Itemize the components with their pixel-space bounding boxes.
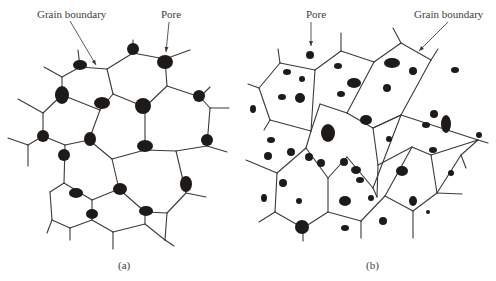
grain-boundary-line — [186, 193, 206, 197]
pore — [409, 67, 417, 75]
pore — [429, 147, 437, 153]
pore — [448, 170, 454, 176]
pore — [180, 176, 192, 192]
grain-boundary-line — [401, 115, 478, 140]
panel-b-pores — [250, 51, 482, 234]
pore — [368, 195, 374, 201]
pore — [283, 69, 291, 75]
pore — [476, 132, 482, 138]
callout-arrow — [419, 22, 448, 51]
grain-boundary-line — [385, 196, 413, 211]
grain-boundary-line — [278, 49, 280, 63]
grain-boundary-line — [478, 140, 488, 143]
pore — [94, 97, 110, 109]
grain-boundary-line — [264, 120, 270, 130]
grain-boundary-line — [207, 146, 227, 152]
pore — [127, 43, 139, 55]
pore — [193, 90, 205, 102]
grain-boundary-line — [259, 88, 270, 120]
grain-boundary-line — [280, 63, 315, 70]
pore — [305, 153, 313, 161]
pore — [426, 210, 430, 214]
grain-boundary-line — [113, 224, 145, 232]
pore — [341, 225, 349, 231]
grain-boundary-line — [341, 51, 374, 62]
grain-boundary-line — [176, 146, 207, 151]
grain-boundary-line — [107, 53, 133, 69]
pore — [278, 94, 286, 100]
callout-arrow — [70, 21, 96, 65]
pore — [69, 188, 83, 198]
panel-a-grain-boundaries — [8, 40, 229, 249]
grain-boundary-line — [259, 212, 275, 222]
pore — [356, 177, 364, 183]
pore — [139, 206, 153, 216]
grain-boundary-line — [401, 43, 431, 60]
grain-boundary-line — [248, 84, 259, 88]
pore — [84, 132, 96, 146]
grain-boundary-line — [461, 155, 466, 168]
grain-boundary-line — [165, 213, 167, 240]
pore — [58, 149, 70, 161]
grain-boundary-line — [393, 28, 401, 43]
pore — [360, 115, 372, 125]
pore — [261, 194, 267, 202]
panel-b-labels: PoreGrain boundary — [306, 8, 484, 51]
pore — [296, 198, 302, 204]
pore — [37, 130, 49, 142]
pore — [321, 124, 335, 142]
pore — [409, 196, 417, 206]
grain-boundary-line — [431, 140, 478, 155]
grain-boundary-line — [167, 193, 186, 213]
pore — [384, 58, 400, 68]
grain-boundary-line — [8, 138, 28, 145]
pore — [250, 105, 256, 113]
pore — [379, 217, 387, 225]
grain-boundary-line — [70, 220, 92, 228]
grain-boundary-line — [328, 212, 361, 221]
grain-boundary-line — [145, 224, 165, 240]
grain-boundary-line — [18, 99, 43, 113]
grain-boundary-line — [50, 192, 52, 220]
grain-boundary-line — [270, 120, 311, 131]
grain-boundary-line — [165, 240, 174, 246]
pore — [299, 76, 305, 82]
pore — [295, 93, 305, 103]
pore — [137, 140, 153, 152]
grain-boundary-pore-diagram: Grain boundaryPore (a) PoreGrain boundar… — [0, 0, 496, 281]
panel-b: PoreGrain boundary (b) — [246, 8, 488, 272]
arrowhead-icon — [309, 41, 313, 46]
pore — [295, 220, 309, 234]
pore — [279, 179, 287, 187]
panel-b-grain-boundaries — [246, 28, 488, 241]
grain-boundary-line — [306, 131, 311, 148]
grain-boundary-line — [44, 67, 62, 77]
grain-boundary-line — [431, 49, 438, 60]
callout-label: Grain boundary — [37, 8, 107, 20]
grain-boundary-line — [107, 69, 113, 94]
grain-boundary-line — [246, 160, 277, 173]
grain-boundary-line — [401, 60, 431, 115]
pore — [317, 159, 325, 167]
pore — [113, 183, 127, 195]
grain-boundary-line — [50, 183, 64, 192]
pore — [441, 115, 451, 133]
grain-boundary-line — [47, 220, 52, 233]
pore — [347, 78, 361, 88]
pore — [287, 148, 295, 156]
grain-boundary-line — [275, 173, 277, 212]
pore — [157, 55, 173, 69]
grain-boundary-line — [52, 220, 70, 228]
panel-b-caption: (b) — [366, 259, 379, 272]
panel-a-labels: Grain boundaryPore — [37, 8, 181, 65]
grain-boundary-line — [412, 147, 431, 155]
pore — [334, 63, 342, 69]
pore — [86, 209, 98, 219]
grain-boundary-line — [259, 63, 280, 88]
pore — [201, 134, 213, 146]
grain-boundary-line — [377, 165, 378, 197]
pore — [396, 166, 408, 176]
pore — [264, 152, 272, 160]
pore — [306, 51, 314, 59]
pore — [430, 110, 438, 118]
